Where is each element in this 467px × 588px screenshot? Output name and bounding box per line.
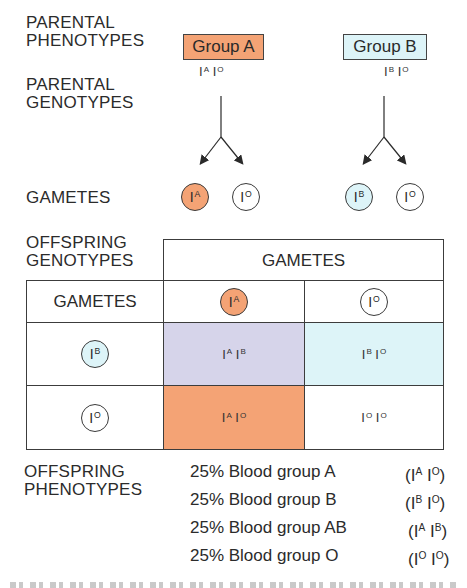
label-line: OFFSPRING <box>26 234 134 252</box>
offspring-genotypes-label: OFFSPRING GENOTYPES <box>26 234 134 270</box>
gamete-io-circle: IO <box>81 404 109 432</box>
result-text: 25% Blood group A <box>190 460 405 488</box>
result-genotype: (IA IB) <box>408 516 447 544</box>
result-row: 25% Blood group A (IA IO) <box>190 460 449 488</box>
segregation-arrows <box>0 0 467 200</box>
result-row: 25% Blood group B (IB IO) <box>190 488 449 516</box>
result-genotype: (IO IO) <box>408 544 449 572</box>
gamete-ia-circle: IA <box>220 288 248 316</box>
gametes-header: GAMETES <box>163 239 444 281</box>
offspring-cell-ia-ib: IA IB <box>164 323 305 386</box>
corner-gametes-label: GAMETES <box>27 281 164 323</box>
column-gamete-ia: IA <box>164 281 305 323</box>
offspring-cell-ib-io: IB IO <box>305 323 444 386</box>
result-row: 25% Blood group AB (IA IB) <box>190 516 449 544</box>
row-gamete-io: IO <box>27 386 164 450</box>
row-gamete-ib: IB <box>27 323 164 386</box>
phenotype-results: 25% Blood group A (IA IO) 25% Blood grou… <box>190 460 449 572</box>
gamete-ib-circle: IB <box>345 183 373 211</box>
gamete-io-circle: IO <box>396 183 424 211</box>
cropped-caption <box>10 582 457 588</box>
result-text: 25% Blood group B <box>190 488 405 516</box>
punnett-square: GAMETES IA IO IB IA IB IB IO IO IA IO IO… <box>26 280 444 450</box>
gamete-ia-circle: IA <box>181 183 209 211</box>
label-line: GENOTYPES <box>26 252 134 270</box>
label-line: OFFSPRING <box>24 463 142 481</box>
column-gamete-io: IO <box>305 281 444 323</box>
result-genotype: (IB IO) <box>405 488 445 516</box>
gamete-io-circle: IO <box>360 288 388 316</box>
result-row: 25% Blood group O (IO IO) <box>190 544 449 572</box>
result-text: 25% Blood group AB <box>190 516 408 544</box>
label-line: PHENOTYPES <box>24 481 142 499</box>
gamete-ib-circle: IB <box>81 340 109 368</box>
result-text: 25% Blood group O <box>190 544 408 572</box>
offspring-cell-ia-io: IA IO <box>164 386 305 450</box>
gamete-io-circle: IO <box>232 183 260 211</box>
offspring-phenotypes-label: OFFSPRING PHENOTYPES <box>24 463 142 499</box>
result-genotype: (IA IO) <box>405 460 445 488</box>
offspring-cell-io-io: IO IO <box>305 386 444 450</box>
arrow-icon <box>201 96 405 163</box>
